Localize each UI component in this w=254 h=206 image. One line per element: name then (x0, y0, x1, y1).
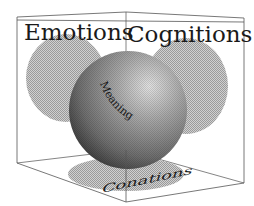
emotions-label: Emotions (24, 19, 134, 45)
cognitions-label: Cognitions (127, 21, 252, 47)
meaning-diagram: Meaning Emotions Cognitions Conations (0, 0, 254, 206)
